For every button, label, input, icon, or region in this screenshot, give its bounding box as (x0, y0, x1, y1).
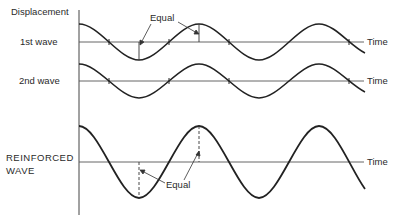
y-axis-label: Displacement (11, 7, 69, 17)
wave-diagram (0, 0, 395, 221)
zero-crossing-ticks (109, 39, 349, 84)
equal-label-bottom: Equal (166, 180, 190, 190)
wave2-label: 2nd wave (19, 76, 60, 86)
equal-label-top: Equal (150, 13, 174, 23)
reinforced-label-line1: REINFORCED (6, 153, 74, 163)
wave1-label: 1st wave (20, 37, 58, 47)
time-label-wave2: Time (367, 76, 388, 86)
reinforced-label-line2: WAVE (6, 166, 35, 176)
time-label-reinforced: Time (367, 157, 388, 167)
time-label-wave1: Time (367, 37, 388, 47)
